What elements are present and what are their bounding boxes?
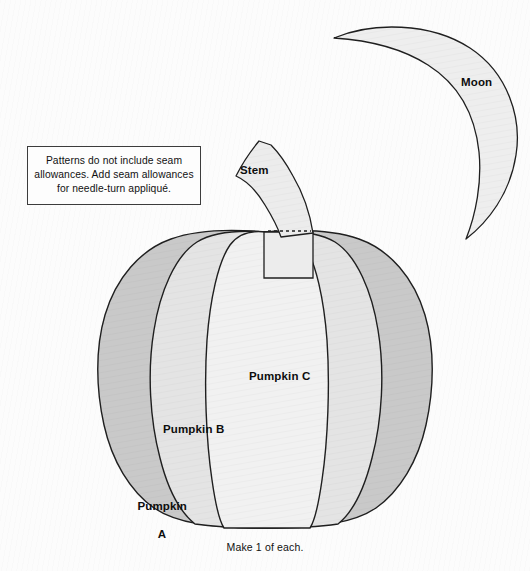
- pattern-illustration: [0, 0, 530, 571]
- moon-label: Moon: [461, 76, 492, 88]
- note-line-1: Patterns do not include seam: [46, 155, 182, 166]
- pattern-page: Patterns do not include seam allowances.…: [0, 0, 530, 571]
- note-line-2: allowances. Add seam allowances: [34, 169, 193, 180]
- moon-texture: [334, 27, 517, 239]
- seam-allowance-note: Patterns do not include seam allowances.…: [27, 146, 201, 205]
- stem-label: Stem: [240, 164, 269, 176]
- make-count-caption: Make 1 of each.: [0, 541, 530, 553]
- pumpkin-c-label: Pumpkin C: [249, 370, 310, 382]
- pumpkin-a-label-line-1: Pumpkin: [137, 500, 187, 512]
- pumpkin-b-label: Pumpkin B: [163, 423, 224, 435]
- note-line-3: for needle-turn appliqué.: [57, 183, 171, 194]
- pumpkin-a-label-line-2: A: [158, 528, 166, 540]
- moon-shape: [334, 27, 517, 239]
- stem-tab-path: [264, 232, 313, 278]
